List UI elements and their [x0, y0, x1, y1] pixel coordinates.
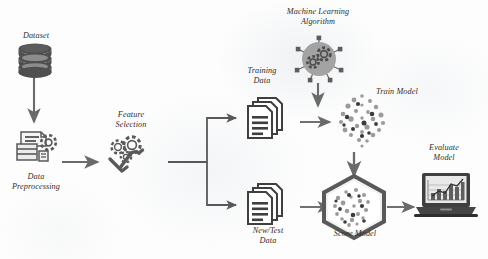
- evaluate-model-label: Evaluate Model: [410, 143, 478, 163]
- laptop-chart-icon: [414, 171, 478, 223]
- score-model-label: Score Model: [322, 229, 388, 239]
- training-data-label: Training Data: [234, 66, 290, 86]
- arrow-feature-selection-branch: [168, 118, 236, 205]
- new-test-data-label: New/Test Data: [240, 226, 296, 246]
- gears-wrench-icon: [106, 137, 164, 181]
- new-test-data-document-stack-icon: [240, 182, 292, 230]
- data-preprocessing-label: Data Preprocessing: [0, 172, 74, 192]
- data-preprocessing-icon: [12, 128, 60, 170]
- training-data-document-stack-icon: [240, 96, 292, 144]
- gears-network-circle-icon: [290, 34, 348, 86]
- feature-selection-label: Feature Selection: [100, 110, 162, 130]
- ml-algorithm-label: Machine Learning Algorithm: [266, 7, 370, 27]
- database-cylinder-icon: [12, 42, 58, 80]
- ml-workflow-diagram: Dataset: [0, 0, 488, 259]
- scatter-cluster-icon: [332, 88, 392, 150]
- dataset-label: Dataset: [8, 31, 64, 41]
